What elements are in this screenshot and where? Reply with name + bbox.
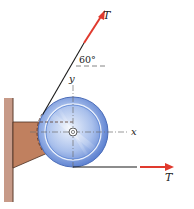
label-tension-bottom: T	[165, 171, 174, 184]
label-tension-top: T	[103, 9, 112, 22]
label-y-axis: y	[68, 73, 75, 84]
pin	[69, 128, 77, 136]
tension-arrow-upper	[84, 10, 105, 43]
label-angle: 60°	[79, 54, 96, 65]
tension-arrow-lower	[140, 163, 174, 171]
pulley-diagram: T 60° y x T	[0, 0, 194, 209]
wall	[4, 98, 13, 202]
label-x-axis: x	[131, 126, 137, 137]
